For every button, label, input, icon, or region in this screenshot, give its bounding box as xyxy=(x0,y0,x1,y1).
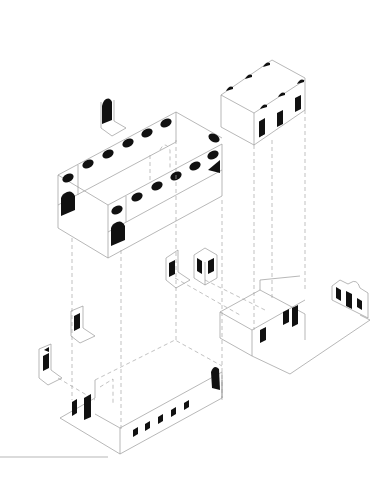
floating-wall-top xyxy=(101,98,126,136)
axonometric-drawing xyxy=(0,0,386,477)
floating-wall-mid-2 xyxy=(194,248,217,285)
ground-left-block xyxy=(60,340,222,454)
ground-right-block xyxy=(220,276,370,374)
floating-wall-left-1 xyxy=(71,306,95,343)
floating-wall-left-2 xyxy=(39,344,62,385)
floating-wall-mid-1 xyxy=(166,250,190,288)
upper-right-block xyxy=(221,60,305,145)
right-facade xyxy=(332,280,368,318)
upper-left-block xyxy=(58,112,222,258)
